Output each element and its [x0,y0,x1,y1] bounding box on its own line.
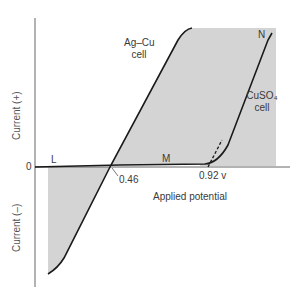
decomposition-annotation: 0.92 v [199,171,226,181]
cuso4-label-line1: CuSO₄ [245,91,279,101]
point-l-label: L [51,155,57,165]
ag-cu-label: Ag–Cu cell [124,38,154,60]
cuso4-label-line2: cell [245,103,279,113]
shaded-region-negative [48,167,110,274]
cuso4-label: CuSO₄ cell [245,91,279,113]
y-axis-negative-label: Current (–) [12,204,22,252]
ag-cu-label-line1: Ag–Cu [124,38,154,48]
leader-0-46 [112,168,118,176]
point-n-label: N [258,30,265,40]
x-axis-label: Applied potential [153,192,227,202]
ag-cu-label-line2: cell [124,50,154,60]
y-axis-positive-label: Current (+) [12,91,22,140]
crossing-annotation: 0.46 [119,175,138,185]
point-m-label: M [162,154,170,164]
zero-label: 0 [26,162,32,172]
